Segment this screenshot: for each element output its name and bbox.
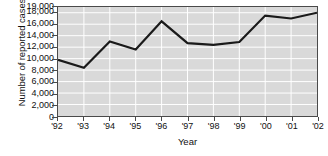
x-tick-label: '97	[182, 121, 194, 131]
x-tick-mark	[214, 117, 215, 121]
y-tick-mark	[52, 12, 57, 13]
gridlines	[58, 7, 317, 116]
y-tick-mark	[52, 24, 57, 25]
x-tick-mark	[266, 117, 267, 121]
y-tick-label: 6,000	[31, 77, 54, 86]
x-tick-label: '98	[208, 121, 220, 131]
y-tick-label: 2,000	[31, 101, 54, 110]
x-tick-label: '00	[260, 121, 272, 131]
y-tick-mark	[52, 70, 57, 71]
x-tick-label: '96	[156, 121, 168, 131]
plot-svg	[58, 7, 317, 116]
x-tick-label: '01	[286, 121, 298, 131]
y-tick-mark	[52, 47, 57, 48]
y-tick-label: 14,000	[26, 31, 54, 40]
y-tick-label: 10,000	[26, 54, 54, 63]
y-tick-mark	[52, 82, 57, 83]
x-tick-label: '95	[129, 121, 141, 131]
x-axis-tick-labels: '92'93'94'95'96'97'98'99'00'01'02	[0, 121, 328, 135]
y-tick-label: 4,000	[31, 89, 54, 98]
line-chart: Number of reported cases 02,0004,0006,00…	[0, 0, 328, 156]
x-tick-label: '94	[103, 121, 115, 131]
x-tick-mark	[83, 117, 84, 121]
plot-area	[57, 6, 318, 117]
x-tick-mark	[240, 117, 241, 121]
x-tick-label: '99	[234, 121, 246, 131]
x-tick-label: '93	[77, 121, 89, 131]
y-tick-mark	[52, 35, 57, 36]
x-tick-mark	[135, 117, 136, 121]
x-axis-title: Year	[57, 136, 318, 147]
x-tick-mark	[109, 117, 110, 121]
y-tick-mark	[52, 105, 57, 106]
y-tick-mark	[52, 59, 57, 60]
x-tick-label: '02	[312, 121, 324, 131]
x-tick-mark	[188, 117, 189, 121]
x-tick-mark	[318, 117, 319, 121]
y-tick-label: 19,000	[26, 2, 54, 11]
x-tick-mark	[292, 117, 293, 121]
y-tick-mark	[52, 6, 57, 7]
x-tick-label: '92	[51, 121, 63, 131]
y-tick-mark	[52, 94, 57, 95]
y-tick-label: 8,000	[31, 66, 54, 75]
y-tick-label: 16,000	[26, 19, 54, 28]
x-tick-mark	[57, 117, 58, 121]
y-tick-label: 12,000	[26, 42, 54, 51]
x-tick-mark	[161, 117, 162, 121]
